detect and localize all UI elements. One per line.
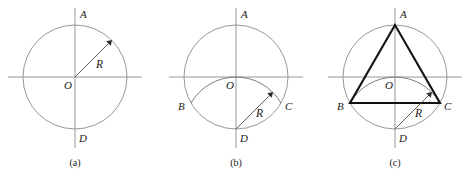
panel-a-radius-arrow — [75, 42, 111, 78]
panel-c-point-label-B: B — [337, 100, 344, 112]
panel-b-point-label-D: D — [239, 132, 248, 144]
panel-b-point-label-O: O — [226, 79, 234, 91]
panel-c-point-label-D: D — [398, 132, 407, 144]
geometry-figure: R A O D (a) R A O B C D (b) — [0, 0, 471, 179]
panel-b-radius-arrow — [236, 94, 272, 130]
panel-c-caption: (c) — [389, 157, 400, 169]
panel-c-point-label-O: O — [385, 79, 393, 91]
panel-a: R A O D (a) — [8, 8, 142, 169]
panel-b-point-label-C: C — [285, 100, 293, 112]
panel-b-point-label-A: A — [240, 8, 248, 20]
panel-a-radius-label: R — [95, 58, 103, 70]
panel-c-point-label-A: A — [399, 8, 407, 20]
panel-a-point-label-D: D — [78, 132, 87, 144]
panel-b-radius-label: R — [255, 107, 263, 119]
panel-c-radius-arrow — [395, 94, 431, 130]
panel-c-radius-label: R — [414, 107, 422, 119]
figure-container: R A O D (a) R A O B C D (b) — [0, 0, 471, 179]
panel-c: R A O B C D (c) — [328, 8, 462, 169]
panel-a-point-label-A: A — [79, 8, 87, 20]
panel-b-caption: (b) — [230, 157, 242, 169]
panel-c-point-label-C: C — [444, 100, 452, 112]
panel-b: R A O B C D (b) — [169, 8, 303, 169]
panel-b-point-label-B: B — [178, 100, 185, 112]
panel-a-point-label-O: O — [64, 79, 72, 91]
panel-a-caption: (a) — [69, 157, 80, 169]
